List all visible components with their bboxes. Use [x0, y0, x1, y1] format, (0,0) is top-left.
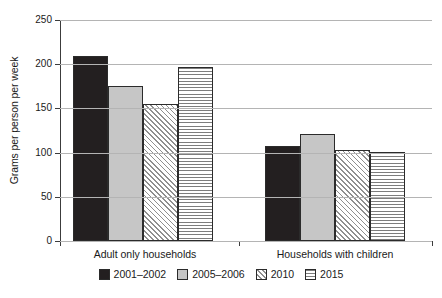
plot-bars	[60, 20, 432, 241]
legend-label-0: 2001–2002	[114, 269, 167, 280]
legend-item-0[interactable]: 2001–2002	[99, 269, 167, 280]
legend-label-3: 2015	[320, 269, 343, 280]
bar-0-2	[143, 104, 178, 241]
legend-label-2: 2010	[271, 269, 294, 280]
gridline-y-200	[60, 64, 432, 65]
y-tick-label-50: 50	[22, 192, 52, 202]
y-tick-label-200: 200	[22, 59, 52, 69]
y-axis-title: Grams per person per week	[4, 0, 24, 241]
y-tick-150: 150	[0, 103, 52, 113]
bar-1-0	[265, 146, 300, 241]
bar-0-3	[178, 67, 213, 241]
bar-chart: Grams per person per week 05010015020025…	[0, 0, 442, 298]
bar-0-1	[108, 86, 143, 241]
x-axis-tick-end	[432, 241, 433, 246]
legend-item-1[interactable]: 2005–2006	[177, 269, 245, 280]
gridline-y-50	[60, 197, 432, 198]
y-tick-250: 250	[0, 15, 52, 25]
bar-1-1	[300, 134, 335, 241]
gridline-y-0	[60, 241, 432, 242]
bar-1-2	[335, 150, 370, 241]
legend-item-3[interactable]: 2015	[305, 269, 343, 280]
gridline-y-150	[60, 108, 432, 109]
y-tick-label-250: 250	[22, 15, 52, 25]
x-axis-category-label-0: Adult only households	[75, 248, 215, 260]
legend-swatch-icon-0	[99, 269, 110, 280]
bar-0-0	[73, 56, 108, 241]
legend-item-2[interactable]: 2010	[256, 269, 294, 280]
legend-swatch-icon-2	[256, 269, 267, 280]
y-tick-label-100: 100	[22, 148, 52, 158]
gridline-y-250	[60, 20, 432, 21]
y-tick-label-150: 150	[22, 103, 52, 113]
legend-swatch-icon-1	[177, 269, 188, 280]
x-axis-category-label-1: Households with children	[265, 248, 405, 260]
gridline-y-100	[60, 153, 432, 154]
y-tick-label-0: 0	[22, 236, 52, 246]
y-tick-50: 50	[0, 192, 52, 202]
y-tick-0: 0	[0, 236, 52, 246]
y-tick-100: 100	[0, 148, 52, 158]
y-tick-200: 200	[0, 59, 52, 69]
legend-swatch-icon-3	[305, 269, 316, 280]
legend: 2001–20022005–200620102015	[0, 269, 442, 280]
legend-label-1: 2005–2006	[192, 269, 245, 280]
